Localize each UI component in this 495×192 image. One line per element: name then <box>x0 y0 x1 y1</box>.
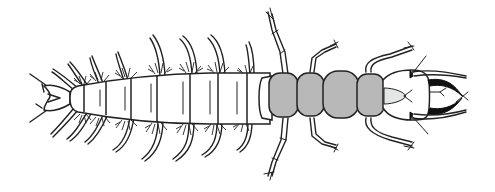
thorax-segment-2 <box>297 73 324 116</box>
thorax-segment-1 <box>269 73 298 117</box>
thorax-segment-3 <box>323 71 359 118</box>
thorax <box>259 71 384 120</box>
thorax-segment-4 <box>357 74 384 116</box>
figure: Line drawing of an aquatic insect larva … <box>0 0 495 192</box>
mandible-upper <box>428 79 462 96</box>
head <box>383 56 468 134</box>
larva-illustration <box>0 0 495 192</box>
abdomen <box>70 73 270 124</box>
